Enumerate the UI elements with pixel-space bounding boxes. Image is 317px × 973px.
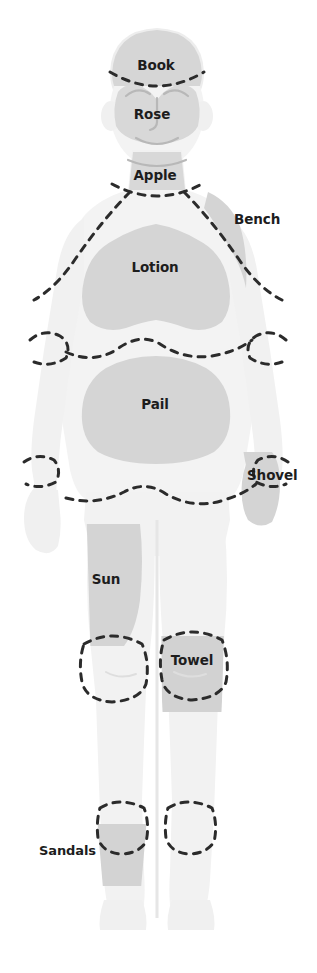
leg-right	[159, 520, 227, 918]
label-rose: Rose	[134, 106, 170, 122]
region-shade-ankle-left-clip	[96, 824, 148, 886]
label-pail: Pail	[141, 396, 169, 412]
label-book: Book	[137, 57, 176, 73]
label-apple: Apple	[133, 167, 176, 183]
label-shovel: Shovel	[247, 467, 298, 483]
label-bench: Bench	[234, 211, 280, 227]
label-lotion: Lotion	[131, 259, 178, 275]
body-map-canvas: Book Rose Apple Bench Lotion Pail Shovel…	[0, 0, 317, 973]
hand-left	[24, 488, 61, 553]
label-sandals: Sandals	[39, 843, 96, 858]
body-map-diagram: Book Rose Apple Bench Lotion Pail Shovel…	[0, 0, 317, 973]
label-towel: Towel	[171, 652, 213, 668]
foot-left	[100, 900, 147, 930]
foot-right	[168, 900, 215, 930]
region-shade-ankle-left	[96, 824, 148, 886]
label-sun: Sun	[92, 571, 121, 587]
